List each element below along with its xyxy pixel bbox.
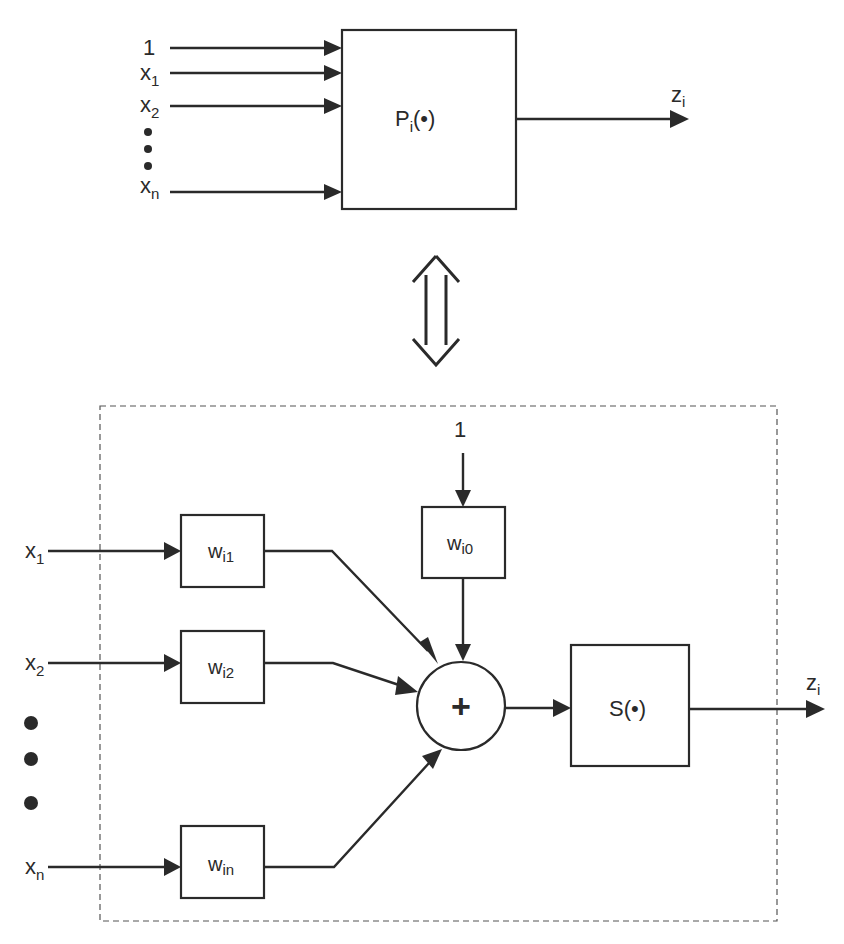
arrowhead-icon [553, 699, 571, 717]
arrowhead-icon [395, 676, 418, 695]
summing-junction: + [417, 662, 505, 750]
plus-icon: + [451, 687, 471, 725]
svg-text:1: 1 [143, 35, 155, 60]
svg-text:1: 1 [454, 417, 466, 442]
svg-text:x2: x2 [25, 650, 44, 679]
p-function-label: Pi(•) [395, 106, 435, 135]
top-ellipsis-dots [144, 128, 152, 170]
top-input-xn: xn [140, 173, 342, 202]
arrowhead-icon [806, 700, 825, 718]
arrowhead-icon [324, 98, 342, 114]
top-block-diagram: Pi(•) 1 x1 x2 xn [140, 30, 689, 209]
top-input-x1: x1 [140, 60, 342, 89]
svg-text:x2: x2 [140, 92, 159, 121]
top-input-x2: x2 [140, 92, 342, 121]
bias-input: 1 [454, 417, 471, 507]
svg-text:zi: zi [806, 670, 820, 698]
svg-text:zi: zi [671, 82, 685, 110]
input-xn-path: xn win [25, 749, 442, 898]
bottom-neuron-diagram: 1 wi0 x1 wi1 x2 wi2 [24, 406, 825, 921]
bottom-output-zi: zi [689, 670, 825, 718]
arrowhead-icon [324, 184, 342, 200]
arrowhead-icon [455, 644, 471, 661]
arrowhead-icon [164, 858, 181, 876]
svg-text:xn: xn [25, 854, 44, 883]
svg-text:x1: x1 [25, 538, 44, 567]
arrowhead-icon [420, 637, 438, 664]
arrowhead-icon [324, 40, 342, 56]
double-arrow-icon [413, 256, 459, 365]
svg-text:xn: xn [140, 173, 159, 202]
arrowhead-icon [164, 542, 181, 560]
svg-text:x1: x1 [140, 60, 159, 89]
arrowhead-icon [164, 654, 181, 672]
neuron-equivalence-diagram: Pi(•) 1 x1 x2 xn [0, 0, 844, 944]
activation-label: S(•) [609, 696, 646, 721]
input-x2-path: x2 wi2 [25, 631, 418, 703]
top-input-bias: 1 [143, 35, 342, 60]
arrowhead-icon [324, 65, 342, 81]
top-output-zi: zi [516, 82, 689, 128]
arrowhead-icon [455, 490, 471, 507]
bottom-ellipsis-dots [24, 716, 38, 810]
arrowhead-icon [670, 110, 689, 128]
